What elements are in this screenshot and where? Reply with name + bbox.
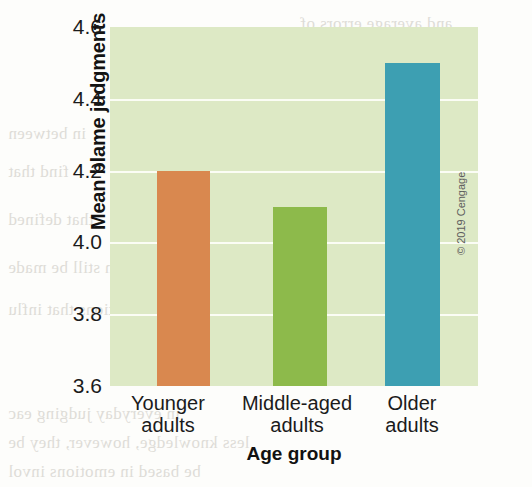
x-axis-tick-label-middle-aged-adults: Middle-aged adults (222, 392, 372, 437)
chart-figure: and average errors of you reach a conclu… (0, 0, 532, 487)
y-axis-tick-label: 4.0 (42, 230, 102, 254)
x-tick-line: Younger (108, 392, 228, 414)
y-axis-tick-label: 4.6 (42, 15, 102, 39)
y-axis-ticks: 4.6 4.4 4.2 4.0 3.8 3.6 (38, 27, 102, 386)
x-tick-line: adults (222, 414, 372, 436)
bar-middle-aged-adults[interactable] (273, 207, 327, 387)
x-tick-line: Middle-aged (222, 392, 372, 414)
plot-area (110, 27, 478, 386)
y-axis-tick-label: 3.8 (42, 302, 102, 326)
bar-younger-adults[interactable] (157, 171, 210, 386)
x-tick-line: Older (362, 392, 462, 414)
y-axis-tick-label: 4.2 (42, 159, 102, 183)
bar-older-adults[interactable] (385, 63, 440, 386)
x-axis-tick-label-older-adults: Older adults (362, 392, 462, 437)
x-tick-line: adults (108, 414, 228, 436)
y-axis-tick-label: 3.6 (42, 374, 102, 398)
copyright-credit: © 2019 Cengage (455, 125, 467, 255)
y-axis-tick-label: 4.4 (42, 87, 102, 111)
x-axis-tick-label-younger-adults: Younger adults (108, 392, 228, 437)
x-tick-line: adults (362, 414, 462, 436)
x-axis-title: Age group (110, 443, 478, 465)
bleed-text-line: be based in emotions invol (8, 462, 201, 482)
